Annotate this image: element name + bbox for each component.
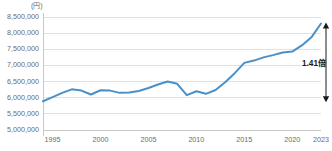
- line-chart: (円) 8,500,0008,000,0007,500,0007,000,000…: [0, 0, 332, 151]
- x-axis-tick-label: 2000: [93, 135, 109, 144]
- x-axis-tick-label: 2020: [284, 135, 300, 144]
- x-axis-tick-label: 2005: [140, 135, 156, 144]
- x-axis-tick-label: 1995: [45, 135, 61, 144]
- x-axis-tick-label: 2015: [236, 135, 252, 144]
- x-axis-tick-label: 2010: [188, 135, 204, 144]
- x-axis-tick-labels: 1995200020052010201520202023: [0, 0, 332, 151]
- ratio-annotation-label: 1.41倍: [302, 56, 326, 68]
- x-axis-tick-label: 2023: [313, 135, 329, 144]
